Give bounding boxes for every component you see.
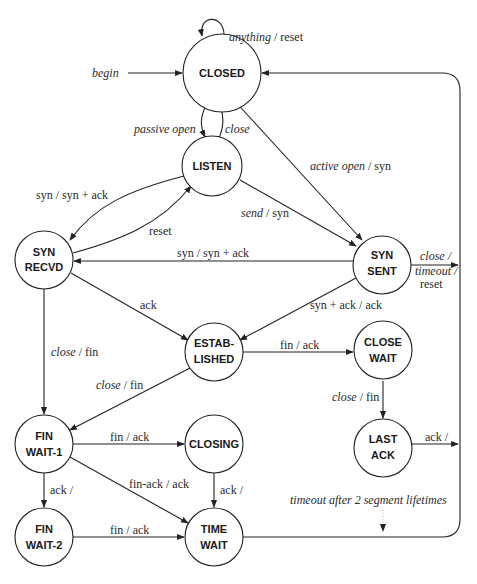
state-syn-recvd: SYN RECVD [15,231,73,289]
label-close-fin-established: close / fin [96,378,143,392]
label-begin: begin [92,66,119,80]
label-timeout-slash: timeout / [415,264,459,278]
state-last-ack: LAST ACK [354,419,412,477]
label-close-fin-closewait: close / fin [332,390,379,404]
label-reset-synsent: reset [420,277,443,291]
label-fin-ack-finwait1: fin / ack [110,430,149,444]
state-syn-recvd-label-2: RECVD [25,261,64,273]
state-syn-sent-label-2: SENT [367,265,397,277]
edge-closed-listen [201,105,206,137]
state-time-wait: TIME WAIT [185,508,243,566]
state-closed: CLOSED [183,34,261,112]
label-synack-ack: syn + ack / ack [310,298,382,312]
label-close-fin-synrecvd: close / fin [51,345,98,359]
label-syn-synack-synsent: syn / syn + ack [177,246,249,260]
label-fin-ack-established: fin / ack [280,338,319,352]
state-established-label-1: ESTAB- [194,337,234,349]
state-established-label-2: LISHED [194,353,234,365]
state-fin-wait-2-label-2: WAIT-2 [26,539,63,551]
state-established: ESTAB- LISHED [185,323,243,381]
state-fin-wait-1-label-2: WAIT-1 [26,446,63,458]
label-reset: reset [149,224,172,238]
state-syn-recvd-label-1: SYN [33,246,56,258]
label-ack-finwait1: ack / [50,483,74,497]
label-ack-closing: ack / [220,483,244,497]
state-close-wait-label-1: CLOSE [364,336,402,348]
state-closed-label: CLOSED [199,67,245,79]
label-fin-ack-finwait2: fin / ack [110,523,149,537]
timeout-pointer-arrow [380,524,386,532]
label-passive-open: passive open [133,122,196,136]
state-listen-label: LISTEN [192,160,231,172]
label-finack-ack: fin-ack / ack [129,477,189,491]
state-syn-sent-label-1: SYN [371,249,394,261]
label-timeout-2msl: timeout after 2 segment lifetimes [290,493,447,507]
state-closing: CLOSING [185,415,243,473]
label-active-open-syn: active open / syn [310,159,391,173]
state-fin-wait-1-label-1: FIN [35,430,53,442]
state-close-wait-label-2: WAIT [369,352,397,364]
state-fin-wait-2: FIN WAIT-2 [15,508,73,566]
label-close-slash: close / [420,249,453,263]
edge-synrecvd-established [71,273,188,340]
state-listen: LISTEN [182,136,242,196]
label-anything-reset: anything / reset [229,30,304,44]
label-close: close [225,122,250,136]
state-fin-wait-1: FIN WAIT-1 [15,415,73,473]
state-last-ack-label-1: LAST [369,433,398,445]
state-time-wait-label-1: TIME [201,523,227,535]
state-time-wait-label-2: WAIT [200,539,228,551]
label-ack-lastack: ack / [425,430,449,444]
state-fin-wait-2-label-1: FIN [35,523,53,535]
state-closing-label: CLOSING [189,438,239,450]
state-last-ack-label-2: ACK [371,449,395,461]
label-send-syn: send / syn [241,206,289,220]
label-syn-synack-listen: syn / syn + ack [36,188,108,202]
state-syn-sent: SYN SENT [353,236,411,294]
state-close-wait: CLOSE WAIT [354,321,412,379]
label-ack: ack [140,298,157,312]
tcp-state-diagram: CLOSED LISTEN SYN RECVD SYN SENT ESTAB- … [0,0,477,584]
